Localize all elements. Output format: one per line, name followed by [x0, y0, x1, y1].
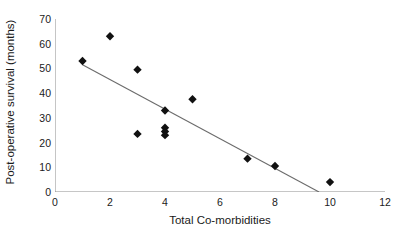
- x-tick-label: 0: [43, 197, 67, 208]
- axes: [55, 19, 385, 192]
- data-point-marker: [78, 57, 86, 65]
- scatter-chart: Post-operative survival (months) 70 60 5…: [0, 0, 393, 238]
- y-tick-label: 40: [29, 88, 51, 98]
- data-point-marker: [326, 178, 334, 186]
- data-point-marker: [188, 95, 196, 103]
- data-point-marker: [271, 162, 279, 170]
- y-tick-label: 0: [29, 187, 51, 197]
- y-axis-title: Post-operative survival (months): [2, 2, 18, 202]
- x-tick-label: 8: [263, 197, 287, 208]
- x-tick-label: 12: [373, 197, 393, 208]
- data-point-marker: [106, 32, 114, 40]
- data-point-marker: [133, 65, 141, 73]
- plot-area: [55, 19, 385, 192]
- x-axis-title: Total Co-morbidities: [55, 214, 385, 226]
- plot-svg: [55, 19, 385, 192]
- trend-line: [83, 65, 320, 192]
- y-tick-label: 60: [29, 39, 51, 49]
- x-tick-label: 6: [208, 197, 232, 208]
- x-tick-label: 10: [318, 197, 342, 208]
- x-tick-label: 4: [153, 197, 177, 208]
- data-point-group: [78, 32, 334, 186]
- y-tick-label: 50: [29, 63, 51, 73]
- y-tick-label: 10: [29, 162, 51, 172]
- y-tick-label: 30: [29, 113, 51, 123]
- y-tick-label: 70: [29, 14, 51, 24]
- y-tick-label: 20: [29, 138, 51, 148]
- data-point-marker: [133, 130, 141, 138]
- x-axis-tick-labels: 0 2 4 6 8 10 12: [55, 197, 393, 211]
- x-tick-label: 2: [98, 197, 122, 208]
